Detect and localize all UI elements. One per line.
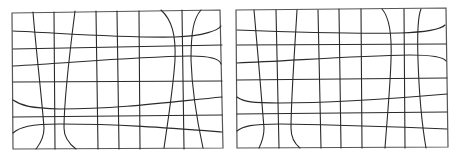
grid-line [54, 12, 55, 149]
grid-line [237, 124, 447, 131]
grid-line [237, 44, 446, 45]
right-distorted-grid [236, 8, 448, 148]
grid-line [13, 115, 222, 117]
left-distorted-grid [12, 10, 223, 149]
grid-line [182, 10, 184, 149]
grid-line [276, 10, 279, 148]
grid-line [13, 97, 222, 109]
grid-line [64, 11, 76, 149]
grid-line [13, 81, 222, 82]
grid-line [13, 56, 221, 66]
grid-line [117, 11, 119, 149]
distorted-grids-diagram [0, 0, 458, 157]
grid-line [237, 78, 447, 80]
grid-line [139, 11, 140, 149]
grid-line [96, 11, 98, 149]
grid-line [237, 112, 447, 114]
grid-line [237, 25, 445, 33]
diagram-canvas [0, 0, 458, 157]
grid-line [237, 94, 447, 103]
grid-line [237, 55, 446, 63]
grid-line [191, 10, 203, 148]
